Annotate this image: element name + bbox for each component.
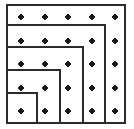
grid-dot-r2-c3	[65, 38, 70, 43]
grid-dot-r5-c1	[18, 108, 23, 113]
grid-dot-r2-c2	[42, 38, 47, 43]
grid-dot-r1-c2	[42, 14, 47, 19]
grid-dot-r1-c4	[89, 14, 94, 19]
grid-dot-r1-c1	[18, 14, 23, 19]
grid-dot-r5-c2	[42, 108, 47, 113]
grid-dot-r2-c5	[112, 38, 117, 43]
grid-dot-r3-c5	[112, 61, 117, 66]
dot-grid-figure	[0, 0, 134, 129]
grid-dot-r3-c2	[42, 61, 47, 66]
grid-dot-r1-c3	[65, 14, 70, 19]
grid-dot-r2-c1	[18, 38, 23, 43]
grid-dot-r4-c2	[42, 85, 47, 90]
grid-dot-r4-c5	[112, 85, 117, 90]
grid-dot-r4-c1	[18, 85, 23, 90]
grid-dot-r1-c5	[112, 14, 117, 19]
grid-dot-r3-c4	[89, 61, 94, 66]
grid-dot-r3-c1	[18, 61, 23, 66]
grid-dot-r2-c4	[89, 38, 94, 43]
grid-dot-r4-c3	[65, 85, 70, 90]
grid-dot-r4-c4	[89, 85, 94, 90]
figure-canvas	[0, 0, 134, 129]
grid-dot-r3-c3	[65, 61, 70, 66]
grid-dot-r5-c4	[89, 108, 94, 113]
grid-dot-r5-c3	[65, 108, 70, 113]
grid-dot-r5-c5	[112, 108, 117, 113]
